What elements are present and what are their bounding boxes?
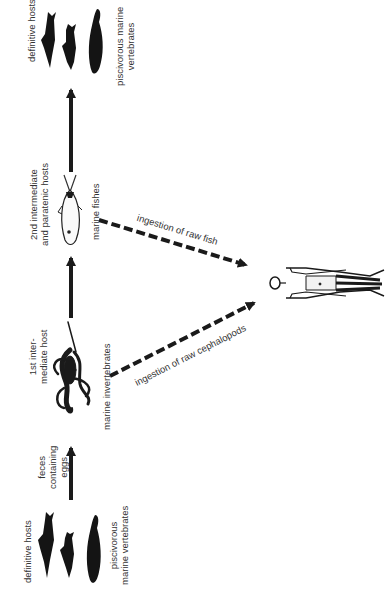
label-first-intermediate-line2: mediate host <box>38 330 49 384</box>
label-first-intermediate-line1: 1st inter- <box>27 330 38 384</box>
label-piscivorous-bottom-line1: piscivorous <box>108 506 119 585</box>
label-feces-line1: feces <box>36 446 47 489</box>
label-piscivorous-top: piscivorous marine vertebrates <box>114 7 136 86</box>
label-second-intermediate-line1: 2nd intermediate <box>28 163 39 246</box>
label-marine-invertebrates: marine invertebrates <box>101 343 112 430</box>
label-definitive-hosts-top: definitive hosts <box>26 0 37 62</box>
label-piscivorous-top-line2: vertebrates <box>125 7 136 86</box>
label-definitive-hosts-bottom: definitive hosts <box>22 520 33 583</box>
label-second-intermediate-line2: and paratenic hosts <box>39 163 50 246</box>
fish-icon <box>58 175 82 245</box>
label-marine-fishes: marine fishes <box>90 184 101 241</box>
marine-mammals-icon <box>41 9 103 74</box>
human-figure-icon <box>270 268 384 298</box>
label-piscivorous-top-line1: piscivorous marine <box>114 7 125 86</box>
label-piscivorous-bottom-line2: marine vertebrates <box>119 506 130 585</box>
label-second-intermediate: 2nd intermediate and paratenic hosts <box>28 163 50 246</box>
label-feces-line2: containing <box>47 446 58 489</box>
diagram-canvas <box>0 0 390 614</box>
squid-icon <box>54 322 89 412</box>
marine-mammals-icon-bottom <box>38 512 101 583</box>
label-feces-line3: eggs <box>58 446 69 489</box>
label-piscivorous-bottom: piscivorous marine vertebrates <box>108 506 130 585</box>
label-first-intermediate: 1st inter- mediate host <box>27 330 49 384</box>
label-feces: feces containing eggs <box>36 446 69 489</box>
